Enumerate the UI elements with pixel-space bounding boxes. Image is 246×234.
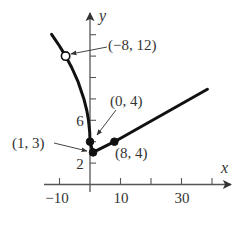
y-axis-label: y: [97, 7, 107, 25]
open-point-marker: [61, 52, 69, 60]
x-tick-label-neg10: −10: [45, 190, 68, 206]
filled-point-marker: [86, 138, 94, 146]
x-tick-label-10: 10: [114, 190, 129, 206]
x-tick-label-30: 30: [175, 190, 190, 206]
point-label-8-4: (8, 4): [115, 145, 148, 162]
left-branch-curve: [52, 34, 90, 141]
y-tick-label-2: 2: [76, 156, 84, 172]
pointer-arrow-0-4: [97, 110, 116, 135]
y-tick-label-6: 6: [76, 113, 84, 129]
pointer-arrow-1-3: [54, 143, 87, 151]
x-axis-label: x: [220, 159, 228, 176]
x-axis-ticks: [60, 178, 213, 185]
point-label-1-3: (1, 3): [12, 135, 45, 152]
point-label-neg8-12: (−8, 12): [108, 37, 156, 54]
point-label-0-4: (0, 4): [110, 93, 143, 110]
pointer-arrow-neg8-12: [71, 47, 107, 54]
function-graph: y x −10 10 30 6 2 (−8, 12) (0, 4) (1, 3)…: [0, 0, 246, 234]
filled-point-marker: [89, 149, 97, 157]
